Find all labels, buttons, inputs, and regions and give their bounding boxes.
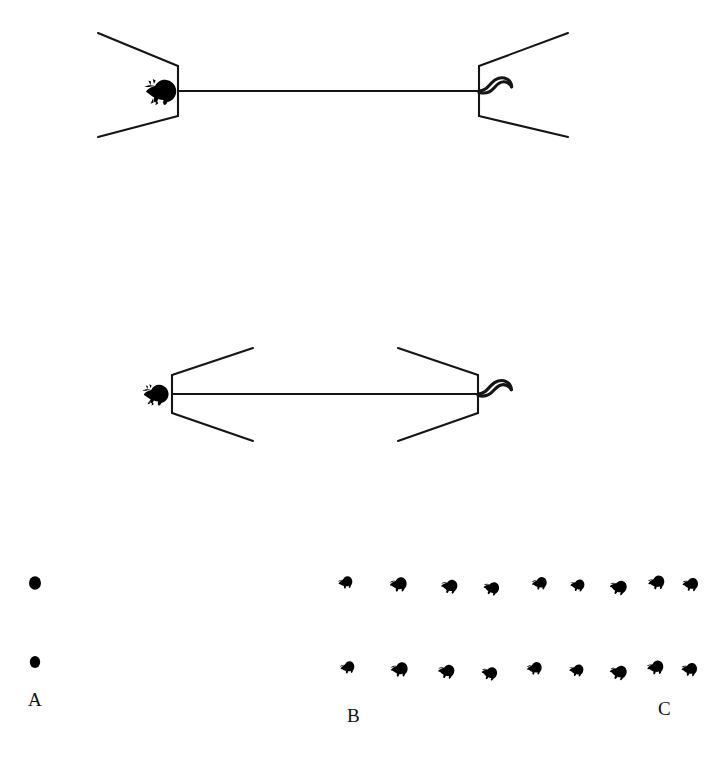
- bird-silhouette-icon: [526, 662, 542, 676]
- dot-lower: [30, 656, 40, 668]
- bottom-diagram: [142, 348, 511, 441]
- s-curve-tail-icon: [478, 381, 511, 397]
- bracket-arm-bottom: [98, 116, 178, 137]
- bird-silhouette-icon: [339, 660, 355, 675]
- bracket-right: [479, 33, 568, 137]
- bird-silhouette-icon: [438, 664, 455, 679]
- bird-silhouette-icon: [647, 575, 665, 591]
- glyph-rows-group: [337, 575, 698, 682]
- bracket-arm-bottom: [398, 413, 478, 441]
- panel-label-C: C: [658, 698, 671, 719]
- bird-silhouette-icon: [609, 664, 628, 681]
- figure-canvas: ABC: [0, 0, 712, 769]
- bird-silhouette-icon: [441, 579, 458, 594]
- bird-silhouette-icon: [681, 663, 697, 677]
- panel-label-A: A: [28, 689, 42, 710]
- scientific-figure: ABC: [0, 0, 712, 769]
- bird-silhouette-icon: [389, 577, 407, 593]
- s-curve-tail-icon: [479, 78, 512, 93]
- panel-a-dots-group: [29, 576, 41, 668]
- bracket-arm-top: [398, 348, 478, 375]
- bracket-arm-top: [98, 33, 178, 66]
- panel-label-B: B: [347, 705, 360, 726]
- glyph-row-upper: [337, 575, 698, 597]
- bird-silhouette-icon: [609, 579, 628, 596]
- bird-silhouette-icon: [531, 577, 547, 591]
- bracket-arm-top: [172, 348, 253, 375]
- bracket-arm-top: [479, 33, 568, 66]
- dot-upper: [29, 576, 41, 590]
- bird-silhouette-icon: [646, 660, 664, 676]
- bird-silhouette-left-icon: [144, 79, 176, 105]
- bracket-arm-bottom: [479, 116, 568, 137]
- diagram-group: [98, 33, 568, 441]
- bird-silhouette-icon: [482, 581, 500, 597]
- glyph-row-lower: [339, 660, 697, 682]
- bird-silhouette-icon: [569, 664, 583, 676]
- bird-silhouette-icon: [570, 579, 584, 591]
- bird-silhouette-icon: [480, 666, 498, 682]
- bird-silhouette-icon: [337, 575, 353, 590]
- top-diagram: [98, 33, 568, 137]
- bracket-arm-bottom: [172, 413, 253, 441]
- panel-labels-group: ABC: [28, 689, 671, 726]
- bird-silhouette-icon: [682, 578, 698, 592]
- bird-silhouette-icon: [390, 662, 408, 678]
- bird-silhouette-left-icon: [142, 384, 168, 405]
